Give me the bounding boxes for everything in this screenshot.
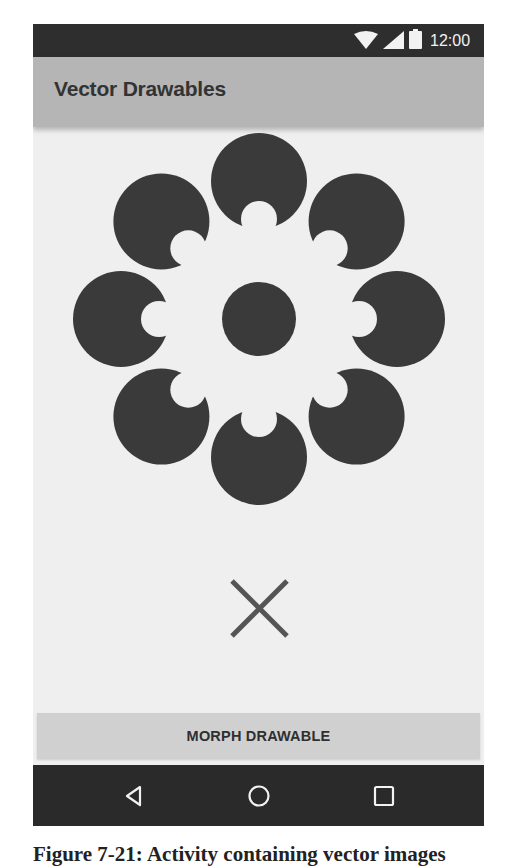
close-x-icon — [33, 24, 484, 724]
phone-screen: 12:00 Vector Drawables — [33, 24, 484, 826]
morph-drawable-button[interactable]: MORPH DRAWABLE — [37, 713, 480, 759]
figure-caption: Figure 7-21: Activity containing vector … — [33, 842, 446, 866]
navigation-bar — [33, 765, 484, 826]
recents-icon[interactable] — [370, 782, 398, 810]
back-icon[interactable] — [120, 782, 148, 810]
home-icon[interactable] — [245, 782, 273, 810]
